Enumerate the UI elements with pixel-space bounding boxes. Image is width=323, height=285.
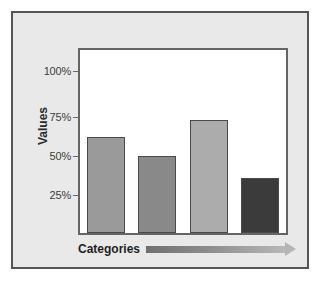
bars-container xyxy=(80,50,286,233)
y-axis-title: Values xyxy=(36,107,50,145)
y-tick-75: 75% xyxy=(50,111,78,123)
y-tick-25: 25% xyxy=(50,189,78,201)
y-tick-mark xyxy=(73,195,78,196)
y-tick-label: 25% xyxy=(50,189,71,201)
arrow-shaft xyxy=(146,246,285,253)
x-axis-arrow-icon xyxy=(146,245,296,254)
bar-chart-figure: 100% 75% 50% 25% Values Categories xyxy=(0,0,323,285)
y-tick-label: 75% xyxy=(50,111,71,123)
y-tick-mark xyxy=(73,156,78,157)
y-tick-label: 50% xyxy=(50,150,71,162)
y-tick-label: 100% xyxy=(44,65,71,77)
bar-4 xyxy=(241,178,279,233)
y-tick-50: 50% xyxy=(50,150,78,162)
x-axis-title-row: Categories xyxy=(78,240,296,258)
y-tick-mark xyxy=(73,117,78,118)
y-tick-100: 100% xyxy=(44,65,78,77)
arrow-head xyxy=(285,242,296,256)
y-tick-mark xyxy=(73,71,78,72)
bar-1 xyxy=(87,137,125,233)
bar-3 xyxy=(190,120,228,233)
bar-2 xyxy=(138,156,176,233)
x-axis-title: Categories xyxy=(78,242,140,256)
